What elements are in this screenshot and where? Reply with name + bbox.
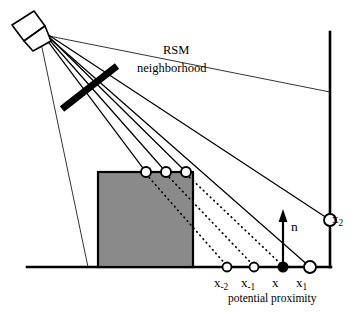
proximity-line-x-center: [186, 174, 283, 266]
x-plus-1-label: x1: [296, 276, 307, 292]
frustum-ray-lower: [40, 38, 88, 267]
rsm-neighborhood-diagram: RSM neighborhood n x2 x-2 x-1 x x1 poten…: [0, 0, 358, 315]
marker-x-plus-1: [304, 261, 316, 273]
normal-vector-label: n: [291, 220, 298, 234]
surface-normal-arrow: [279, 209, 288, 266]
rsm-label: RSM: [163, 44, 189, 57]
marker-x-center: [278, 262, 287, 271]
x-minus-2-subscript: -2: [221, 282, 229, 292]
light-source-icon: [12, 11, 51, 51]
neighborhood-label: neighborhood: [137, 62, 206, 75]
box-sample-marker: [141, 167, 151, 177]
x-plus-2-subscript: 2: [339, 218, 344, 228]
marker-x-minus-2: [223, 263, 232, 272]
x-minus-1-label: x-1: [241, 276, 255, 292]
box-sample-marker: [161, 167, 171, 177]
marker-x-minus-1: [250, 263, 259, 272]
x-plus-1-subscript: 1: [303, 282, 308, 292]
x-minus-2-label: x-2: [214, 276, 228, 292]
x-minus-1-subscript: -1: [248, 282, 256, 292]
box-top-sample-markers: [141, 167, 191, 177]
x-center-label: x: [272, 276, 279, 289]
sample-ray-1: [44, 36, 146, 172]
occluder-box: [98, 172, 193, 267]
box-sample-marker: [181, 167, 191, 177]
normal-arrow-head: [279, 209, 288, 222]
x-plus-2-label: x2: [332, 212, 343, 228]
potential-proximity-caption: potential proximity: [228, 293, 316, 305]
